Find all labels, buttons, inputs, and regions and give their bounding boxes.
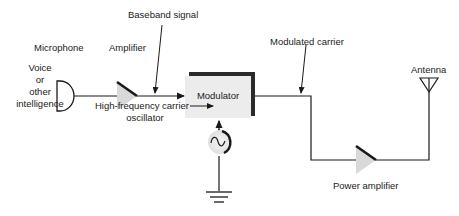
ground-icon	[206, 192, 232, 202]
modulated-carrier-label: Modulated carrier	[270, 36, 344, 48]
source-label-line1: Voice	[18, 62, 62, 74]
power-amplifier-label: Power amplifier	[333, 180, 398, 192]
wire-pa-antenna	[376, 90, 429, 160]
oscillator-label-line2: oscillator	[95, 112, 195, 124]
modulated-pointer	[301, 45, 306, 93]
antenna-icon	[420, 78, 438, 92]
source-label-line2: or	[18, 74, 62, 86]
oscillator-label-line1: High-frequency carrier	[95, 100, 189, 112]
antenna-label: Antenna	[411, 64, 446, 76]
baseband-label: Baseband signal	[128, 9, 198, 21]
amplifier-label: Amplifier	[109, 42, 146, 54]
source-label-line3: other	[18, 86, 62, 98]
oscillator-icon	[208, 130, 232, 154]
baseband-pointer	[155, 25, 162, 93]
modulator-label: Modulator	[185, 90, 251, 102]
power-amplifier-icon	[356, 146, 376, 174]
source-label-line4: intelligence	[8, 98, 72, 110]
wire-modulated	[255, 96, 356, 160]
microphone-label: Microphone	[34, 42, 84, 54]
